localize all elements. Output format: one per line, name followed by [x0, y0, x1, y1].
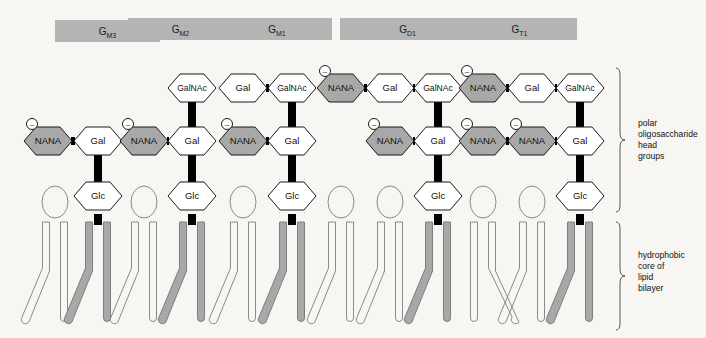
sugar-residue-label: NANA: [470, 82, 497, 93]
glycosidic-bond: [434, 154, 442, 183]
sugar-residue-label: NANA: [230, 135, 257, 146]
sugar-residue-label: GalNAc: [423, 83, 453, 93]
sugar-residue-label: NANA: [377, 135, 404, 146]
sugar-residue-label: Gal: [236, 82, 251, 93]
glycosidic-bond: [94, 154, 102, 183]
glycosidic-bond: [288, 101, 296, 128]
sugar-residue-label: GalNAc: [565, 83, 595, 93]
negative-charge-sign: –: [323, 67, 328, 76]
ganglioside-header-bar: GT1: [462, 18, 577, 40]
ganglioside-header-bar: GM2: [128, 18, 233, 40]
sugar-residue-label: Glc: [573, 190, 588, 201]
ceramide-linkage-bond: [288, 214, 296, 225]
sugar-residue-label: GalNAc: [277, 83, 307, 93]
lipid-tail-straight: [298, 222, 305, 322]
negative-charge-sign: –: [465, 120, 470, 129]
ganglioside-bilayer-diagram: NANA–GalGlcGalNAcNANA–GalGlcGalGalNAcNAN…: [0, 0, 706, 338]
sugar-residue-label: Gal: [525, 82, 540, 93]
sugar-residue-label: NANA: [470, 135, 497, 146]
ceramide-linkage-bond: [434, 214, 442, 225]
sugar-residue-label: Gal: [573, 135, 588, 146]
glycosidic-bond: [576, 101, 584, 128]
ceramide-linkage-bond: [576, 214, 584, 225]
glycosidic-bond: [188, 154, 196, 183]
glycosidic-bond: [288, 154, 296, 183]
ganglioside-header-bars-layer: GM3GM2GM1GD1GT1: [55, 18, 577, 42]
sugar-residue-label: Gal: [91, 135, 106, 146]
sugar-residue-label: Glc: [91, 190, 106, 201]
ceramide-linkage-bond: [188, 214, 196, 225]
lipid-tail-straight: [444, 222, 451, 322]
negative-charge-sign: –: [30, 120, 35, 129]
glycosidic-bond: [434, 101, 442, 128]
lipid-tail-straight: [586, 222, 593, 322]
sugar-residue-label: Glc: [185, 190, 200, 201]
lipid-tail-straight: [198, 222, 205, 322]
sugar-residue-label: GalNAc: [177, 83, 207, 93]
ceramide-linkage-bond: [94, 214, 102, 225]
sugar-residue-label: Glc: [285, 190, 300, 201]
ganglioside-header-bar: GM1: [222, 18, 332, 40]
negative-charge-sign: –: [126, 120, 131, 129]
sugar-residue-label: NANA: [131, 135, 158, 146]
sugar-residue-label: Gal: [431, 135, 446, 146]
sugar-residue-label: Gal: [185, 135, 200, 146]
sugar-residue-label: NANA: [35, 135, 62, 146]
negative-charge-sign: –: [225, 120, 230, 129]
negative-charge-sign: –: [514, 120, 519, 129]
sugar-residue-label: Glc: [431, 190, 446, 201]
glycosidic-bond: [576, 154, 584, 183]
sugar-residue-label: NANA: [328, 82, 355, 93]
sugar-residue-label: Gal: [383, 82, 398, 93]
ganglioside-header-bar: GD1: [340, 18, 475, 40]
sugar-residue-label: NANA: [519, 135, 546, 146]
sugar-residue-label: Gal: [285, 135, 300, 146]
glycosidic-bond: [188, 101, 196, 128]
lipid-tail-straight: [104, 222, 111, 322]
negative-charge-sign: –: [465, 67, 470, 76]
negative-charge-sign: –: [372, 120, 377, 129]
